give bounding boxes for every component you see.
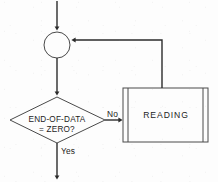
process-label: READING: [143, 110, 188, 120]
no-branch-label: No: [107, 109, 118, 119]
flowchart-svg: END-OF-DATA = ZERO? process ===== --> RE…: [0, 0, 218, 182]
decision-label-line1: END-OF-DATA: [29, 115, 86, 124]
edge-process-feedback-to-connector: [74, 40, 162, 88]
flowchart-canvas: END-OF-DATA = ZERO? process ===== --> RE…: [0, 0, 218, 182]
decision-label-line2: = ZERO?: [39, 125, 75, 134]
yes-branch-label: Yes: [61, 146, 75, 156]
node-decision-diamond: END-OF-DATA = ZERO?: [10, 97, 105, 143]
feedback-loop-path: [74, 40, 162, 88]
node-process-reading: READING: [123, 88, 208, 142]
node-connector-circle: [44, 32, 70, 58]
connector-circle-shape: [44, 32, 70, 58]
